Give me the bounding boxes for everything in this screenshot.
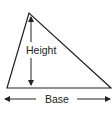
- height-label: Height: [26, 44, 56, 56]
- base-label: Base: [45, 93, 69, 105]
- triangle-diagram: Height Base: [0, 0, 112, 119]
- triangle-shape: [7, 13, 111, 88]
